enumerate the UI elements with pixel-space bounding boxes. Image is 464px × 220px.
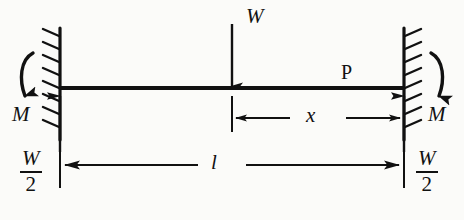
- label-moment-right: M: [428, 104, 446, 125]
- right-support-hatching: [405, 29, 421, 127]
- left-fixed-support: [43, 28, 60, 140]
- right-moment-arc: [431, 53, 443, 96]
- dimension-x: [232, 96, 404, 132]
- label-load-W: W: [246, 6, 264, 27]
- reaction-right-numerator: W: [416, 148, 438, 169]
- left-support-hatching: [43, 29, 59, 127]
- reaction-left-numerator: W: [20, 148, 42, 169]
- label-reaction-left: W 2: [20, 148, 42, 195]
- label-distance-x: x: [306, 105, 315, 126]
- label-moment-left: M: [12, 104, 30, 125]
- label-point-P: P: [341, 62, 352, 82]
- beam-diagram-canvas: [0, 0, 464, 220]
- beam-diagram: W P x l M M W 2 W 2: [0, 0, 464, 220]
- reaction-right-denominator: 2: [416, 174, 438, 195]
- label-span-l: l: [211, 152, 217, 173]
- label-reaction-right: W 2: [416, 148, 438, 195]
- left-moment-arc: [21, 53, 33, 96]
- right-fixed-support: [404, 28, 421, 140]
- dimension-l: [60, 146, 404, 188]
- reaction-left-denominator: 2: [20, 174, 42, 195]
